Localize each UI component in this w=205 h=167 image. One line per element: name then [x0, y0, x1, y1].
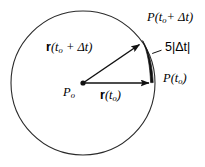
center-point-subscript: o — [71, 90, 75, 100]
figure-container: P(to+ Δt) 5|Δt| P(to) r(to + Δt) Po r(to… — [0, 0, 205, 167]
arc-leader-line — [152, 50, 161, 53]
vector-label-paren-open: (t — [51, 40, 59, 54]
vector-label-r-t0-plus-dt: r(to + Δt) — [46, 41, 92, 55]
center-point-letter: P — [63, 85, 71, 99]
center-point-label: Po — [63, 86, 75, 100]
vector-label-tail: + Δt) — [63, 40, 93, 54]
vector-label-tail: ) — [117, 88, 121, 102]
point-label-prefix: P(t — [147, 10, 162, 24]
arc-length-label: 5|Δt| — [165, 41, 190, 54]
point-label-p-t0-plus-dt: P(to+ Δt) — [147, 11, 193, 25]
point-label-prefix: P(t — [163, 71, 178, 85]
point-label-p-t0: P(to) — [163, 72, 187, 86]
vector-label-r-t0: r(to) — [100, 89, 121, 103]
vector-label-paren-open: (t — [105, 88, 113, 102]
point-label-suffix: + Δt) — [167, 10, 194, 24]
point-label-suffix: ) — [183, 71, 187, 85]
